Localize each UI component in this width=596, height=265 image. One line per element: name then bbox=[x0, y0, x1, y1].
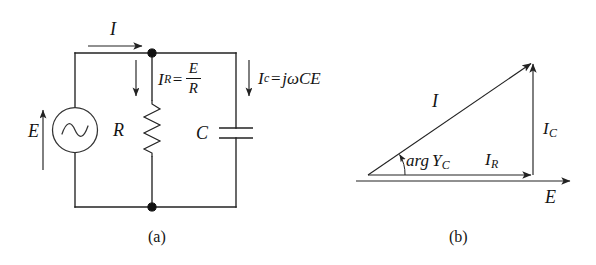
ir-numerator: E bbox=[186, 61, 201, 77]
phasor-diagram bbox=[356, 64, 570, 182]
phasor-total-current-label: I bbox=[432, 92, 438, 110]
total-current-label: I bbox=[110, 20, 116, 38]
figure-root: E I R C IR = E R Ic = jωCE (a) I IC IR E bbox=[0, 0, 596, 265]
phasor-ic-symbol: I bbox=[543, 119, 549, 138]
node-dot-bottom bbox=[148, 203, 156, 211]
angle-subscript: C bbox=[441, 158, 449, 172]
ic-operator: = bbox=[269, 70, 282, 87]
caption-panel-b: (b) bbox=[449, 228, 468, 246]
circuit-diagram bbox=[43, 46, 253, 211]
node-dot-top bbox=[148, 49, 156, 57]
resistor-label: R bbox=[113, 121, 124, 139]
ir-operator: = bbox=[171, 71, 184, 88]
ir-fraction-bar bbox=[186, 78, 201, 79]
source-voltage-label: E bbox=[28, 122, 39, 140]
caption-panel-a: (a) bbox=[148, 228, 166, 246]
ic-expression: jωCE bbox=[282, 70, 320, 87]
ir-subscript: R bbox=[164, 74, 172, 86]
angle-label: argYC bbox=[406, 152, 450, 172]
angle-operator: arg bbox=[406, 151, 429, 170]
phasor-capacitor-current-label: IC bbox=[543, 120, 557, 140]
capacitor-label: C bbox=[196, 124, 208, 142]
phasor-resistor-current-label: IR bbox=[485, 151, 498, 171]
phasor-voltage-axis-label: E bbox=[545, 188, 556, 206]
capacitor-current-equation: Ic = jωCE bbox=[258, 70, 321, 87]
phasor-ir-symbol: I bbox=[485, 150, 491, 169]
figure-canvas bbox=[0, 0, 596, 265]
phasor-ir-subscript: R bbox=[491, 157, 499, 171]
ir-denominator: R bbox=[186, 80, 201, 96]
resistor-current-equation: IR = E R bbox=[158, 62, 203, 98]
ir-fraction: E R bbox=[186, 61, 201, 97]
angle-arc bbox=[400, 155, 406, 176]
resistor-icon bbox=[144, 100, 160, 157]
phasor-ic-subscript: C bbox=[549, 126, 557, 140]
